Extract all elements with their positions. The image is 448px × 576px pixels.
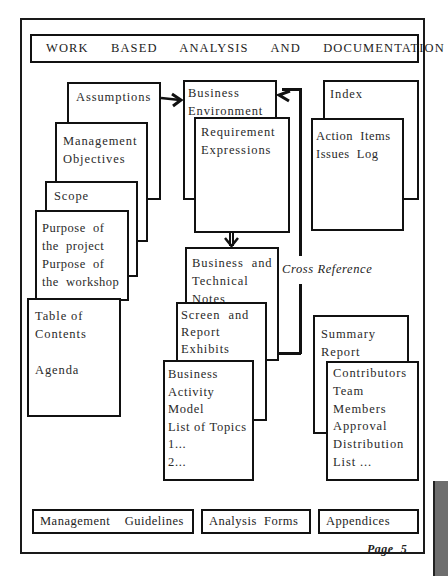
- analysis-forms-box: Analysis Forms: [201, 509, 311, 534]
- arrow-requirement-to-notes: [225, 233, 238, 246]
- adjacent-page-edge: [433, 481, 448, 576]
- appendices-box: Appendices: [318, 509, 419, 534]
- arrow-cross-reference-to-business-environment: [279, 91, 290, 101]
- management-guidelines-box: Management Guidelines: [32, 509, 194, 534]
- arrow-assumptions-to-business-environment: [161, 94, 181, 106]
- page-number: Page 5: [367, 542, 407, 557]
- arrows-layer: [0, 0, 448, 576]
